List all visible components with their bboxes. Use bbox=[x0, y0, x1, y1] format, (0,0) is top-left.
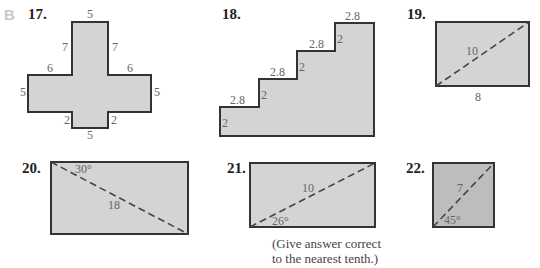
label-18-step3-width: 2.8 bbox=[309, 37, 324, 51]
label-17-right-arm: 6 bbox=[127, 61, 133, 75]
label-18-step4-width: 2.8 bbox=[345, 9, 360, 23]
label-17-upper-left: 7 bbox=[62, 40, 68, 54]
label-19-base: 8 bbox=[475, 90, 481, 104]
label-18-step1-height: 2 bbox=[222, 116, 228, 130]
label-17-left: 5 bbox=[20, 85, 26, 99]
note-line-2: to the nearest tenth.) bbox=[272, 251, 381, 266]
label-21-angle: 26° bbox=[272, 214, 289, 228]
label-18-step1-width: 2.8 bbox=[230, 93, 245, 107]
label-18-step2-width: 2.8 bbox=[270, 65, 285, 79]
label-19-diagonal: 10 bbox=[466, 44, 478, 58]
label-18-step3-height: 2 bbox=[299, 60, 305, 74]
label-20-diagonal: 18 bbox=[108, 198, 120, 212]
label-17-right: 5 bbox=[154, 85, 160, 99]
note-line-1: (Give answer correct bbox=[272, 236, 381, 251]
label-21-diagonal: 10 bbox=[302, 181, 314, 195]
cross-figure bbox=[28, 22, 151, 128]
label-22-angle: 45° bbox=[444, 213, 461, 227]
figures: 5 7 7 6 6 5 5 2 2 5 2.8 2.8 2.8 2.8 2 2 … bbox=[0, 0, 540, 268]
label-18-step4-height: 2 bbox=[337, 32, 343, 46]
label-20-angle: 30° bbox=[75, 162, 92, 176]
label-17-upper-right: 7 bbox=[112, 40, 118, 54]
label-18-step2-height: 2 bbox=[261, 88, 267, 102]
label-17-lower-right: 2 bbox=[111, 113, 117, 127]
problem-21-note: (Give answer correct to the nearest tent… bbox=[272, 236, 381, 266]
label-17-bottom: 5 bbox=[87, 128, 93, 142]
label-22-diagonal: 7 bbox=[457, 181, 463, 195]
label-17-top: 5 bbox=[87, 7, 93, 21]
label-17-lower-left: 2 bbox=[64, 113, 70, 127]
staircase-figure bbox=[220, 23, 374, 136]
label-17-left-arm: 6 bbox=[47, 61, 53, 75]
